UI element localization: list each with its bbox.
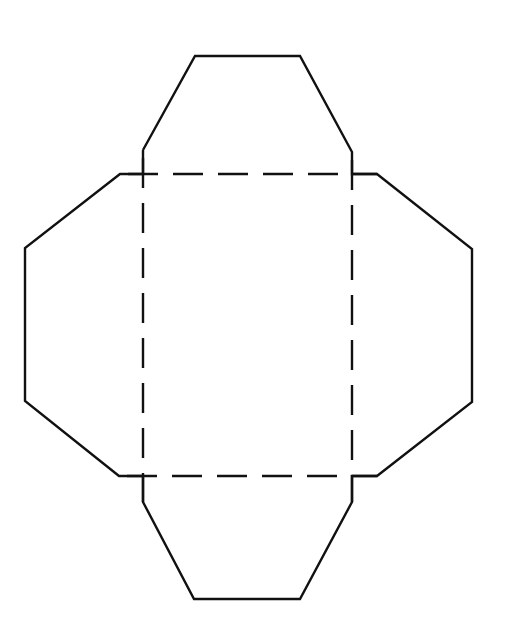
- net-diagram: [0, 0, 514, 637]
- fold-square: [119, 150, 377, 502]
- outline-solid: [25, 56, 472, 599]
- diagram-canvas: [0, 0, 514, 637]
